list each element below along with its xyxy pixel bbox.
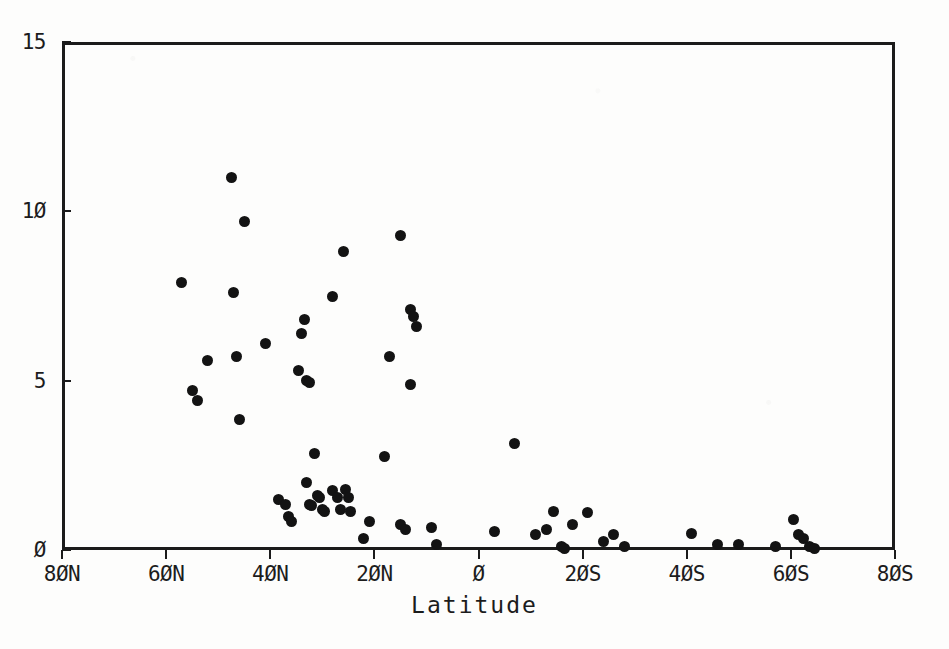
data-point: [343, 492, 354, 503]
data-point: [335, 504, 346, 515]
data-point: [239, 216, 250, 227]
x-tick-mark: [478, 550, 480, 559]
data-point: [489, 526, 500, 537]
data-point: [358, 533, 369, 544]
x-tick-label: 2ØS: [564, 562, 600, 586]
x-tick-mark: [790, 550, 792, 559]
data-point: [426, 522, 437, 533]
data-point: [314, 492, 325, 503]
data-point: [788, 514, 799, 525]
data-point: [286, 516, 297, 527]
x-axis-title: Latitude: [0, 592, 949, 618]
x-tick-mark: [894, 550, 896, 559]
x-tick-mark: [61, 550, 63, 559]
data-point: [296, 328, 307, 339]
y-tick-label: 1Ø: [22, 199, 46, 223]
data-point: [293, 365, 304, 376]
data-point: [770, 541, 781, 552]
x-tick-label: 4ØS: [669, 562, 705, 586]
x-tick-label: 2ØN: [356, 562, 392, 586]
data-point: [231, 351, 242, 362]
data-point: [338, 246, 349, 257]
data-point: [176, 277, 187, 288]
x-tick-mark: [269, 550, 271, 559]
plot-data-area: [62, 42, 895, 550]
x-tick-mark: [686, 550, 688, 559]
x-tick-label: 8ØN: [44, 562, 80, 586]
x-tick-label: 6ØN: [148, 562, 184, 586]
data-point: [548, 506, 559, 517]
y-tick-label: 5: [34, 369, 46, 393]
data-point: [226, 172, 237, 183]
data-point: [299, 314, 310, 325]
data-point: [202, 355, 213, 366]
data-point: [260, 338, 271, 349]
data-point: [530, 529, 541, 540]
data-point: [345, 506, 356, 517]
data-point: [411, 321, 422, 332]
x-tick-mark: [373, 550, 375, 559]
data-point: [582, 507, 593, 518]
y-tick-label: 15: [22, 30, 46, 54]
data-point: [567, 519, 578, 530]
x-tick-mark: [165, 550, 167, 559]
data-point: [559, 543, 570, 554]
data-point: [686, 528, 697, 539]
data-point: [309, 448, 320, 459]
data-point: [395, 230, 406, 241]
data-point: [400, 524, 411, 535]
data-point: [228, 287, 239, 298]
data-point: [598, 536, 609, 547]
data-point: [319, 506, 330, 517]
data-point: [384, 351, 395, 362]
data-point: [608, 529, 619, 540]
data-point: [301, 477, 312, 488]
x-tick-label: 6ØS: [773, 562, 809, 586]
data-point: [431, 539, 442, 550]
data-point: [541, 524, 552, 535]
data-point: [364, 516, 375, 527]
data-point: [234, 414, 245, 425]
x-tick-label: 8ØS: [877, 562, 913, 586]
data-point: [327, 291, 338, 302]
data-point: [379, 451, 390, 462]
y-tick-mark: [62, 380, 71, 382]
x-tick-label: 4ØN: [252, 562, 288, 586]
data-point: [809, 543, 820, 554]
data-point: [712, 539, 723, 550]
y-tick-label: Ø: [34, 538, 46, 562]
scatter-plot-figure: 8ØN6ØN4ØN2ØNØ2ØS4ØS6ØS8ØS Ø51Ø15 Latitud…: [0, 0, 949, 649]
data-point: [619, 541, 630, 552]
data-point: [733, 539, 744, 550]
data-point: [509, 438, 520, 449]
data-point: [304, 377, 315, 388]
x-tick-label: Ø: [472, 562, 484, 586]
data-point: [405, 379, 416, 390]
y-tick-mark: [62, 41, 71, 43]
y-tick-mark: [62, 210, 71, 212]
x-tick-mark: [582, 550, 584, 559]
data-point: [280, 499, 291, 510]
data-point: [192, 395, 203, 406]
y-tick-mark: [62, 549, 71, 551]
